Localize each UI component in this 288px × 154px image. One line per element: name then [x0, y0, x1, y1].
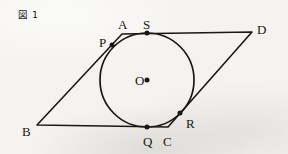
point-dot-q: [145, 125, 150, 130]
point-label-s: S: [143, 18, 150, 31]
diagram-shapes: [37, 32, 252, 127]
point-label-c: C: [163, 135, 172, 148]
figure-page: 図 1 ASDPORBQC: [0, 0, 288, 154]
point-label-r: R: [186, 117, 195, 130]
diagram-points: [110, 31, 183, 130]
point-dot-p: [110, 43, 115, 48]
point-label-d: D: [257, 23, 266, 36]
parallelogram-abcd: [37, 32, 252, 127]
point-label-o: O: [135, 74, 144, 87]
figure-caption: 図 1: [18, 7, 39, 21]
point-label-p: P: [99, 36, 106, 49]
point-label-a: A: [118, 18, 127, 31]
point-label-q: Q: [143, 135, 152, 148]
point-label-b: B: [22, 125, 31, 138]
point-dot-r: [178, 111, 183, 116]
point-dot-o: [145, 78, 150, 83]
